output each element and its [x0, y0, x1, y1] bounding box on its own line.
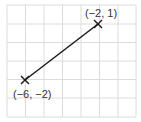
- grid: [7, 5, 136, 117]
- point-a-label: (−6, −2): [13, 88, 52, 100]
- coordinate-grid-diagram: (−2, 1) (−6, −2): [0, 0, 141, 122]
- line-segment: [25, 24, 98, 80]
- point-b-label: (−2, 1): [85, 7, 117, 19]
